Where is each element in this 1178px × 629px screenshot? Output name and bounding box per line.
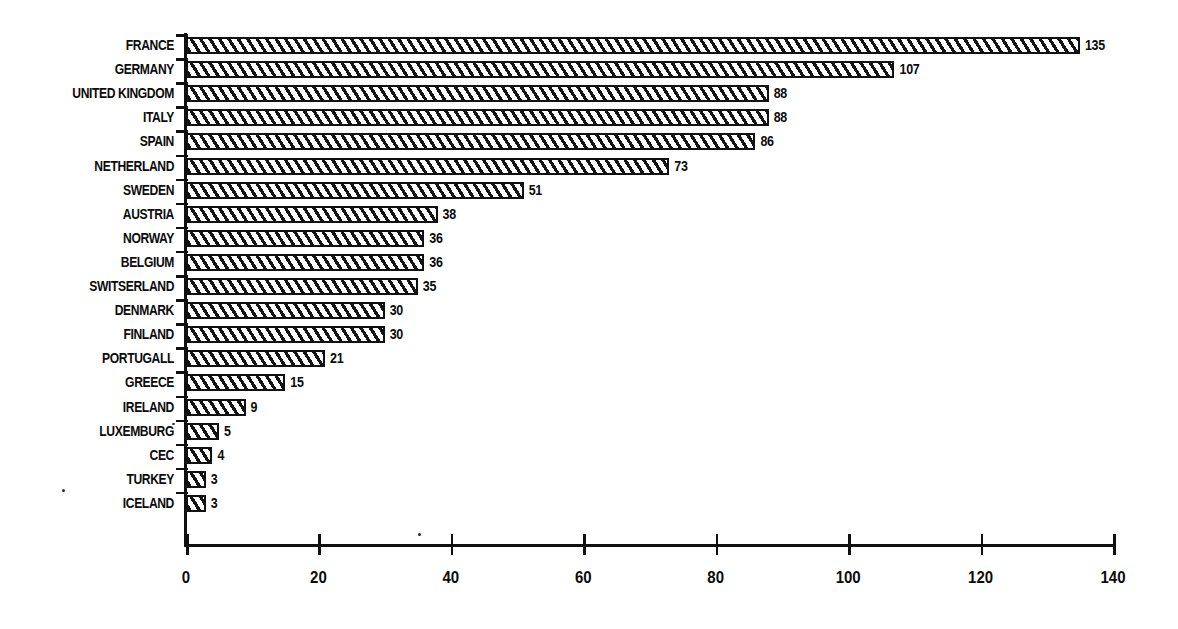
bar-row: FRANCE135 bbox=[0, 37, 1178, 55]
bar-row: DENMARK30 bbox=[0, 302, 1178, 320]
category-label-netherland: NETHERLAND bbox=[0, 155, 174, 176]
x-axis-tick bbox=[318, 534, 321, 555]
category-label-luxemburg: LUXEMBURG bbox=[0, 420, 174, 441]
bar-iceland bbox=[186, 495, 206, 512]
category-label-cec: CEC bbox=[0, 444, 174, 465]
bar-value-label: 9 bbox=[251, 396, 258, 417]
bar-value-label: 30 bbox=[390, 324, 403, 345]
bar-luxemburg bbox=[186, 423, 219, 440]
bar-denmark bbox=[186, 302, 385, 319]
bar-row: AUSTRIA38 bbox=[0, 206, 1178, 224]
bar-value-label: 36 bbox=[429, 251, 442, 272]
bar-row: UNITED KINGDOM88 bbox=[0, 85, 1178, 103]
bar-spain bbox=[186, 133, 755, 150]
bar-finland bbox=[186, 326, 385, 343]
bar-value-label: 38 bbox=[443, 203, 456, 224]
bar-row: SPAIN86 bbox=[0, 133, 1178, 151]
category-label-united-kingdom: UNITED KINGDOM bbox=[0, 83, 174, 104]
bar-austria bbox=[186, 206, 438, 223]
bar-row: LUXEMBURG5 bbox=[0, 423, 1178, 441]
bar-value-label: 30 bbox=[390, 299, 403, 320]
bar-netherland bbox=[186, 158, 669, 175]
category-label-france: FRANCE bbox=[0, 34, 174, 55]
category-label-norway: NORWAY bbox=[0, 227, 174, 248]
bar-value-label: 73 bbox=[674, 155, 687, 176]
category-label-italy: ITALY bbox=[0, 107, 174, 128]
bar-ireland bbox=[186, 399, 246, 416]
x-axis-tick bbox=[186, 534, 189, 555]
bar-rows: FRANCE135GERMANY107UNITED KINGDOM88ITALY… bbox=[0, 0, 1178, 629]
bar-row: ITALY88 bbox=[0, 109, 1178, 127]
bar-value-label: 86 bbox=[760, 131, 773, 152]
bar-row: SWEDEN51 bbox=[0, 182, 1178, 200]
bar-row: NETHERLAND73 bbox=[0, 158, 1178, 176]
bar-row: IRELAND9 bbox=[0, 399, 1178, 417]
bar-chart: FRANCE135GERMANY107UNITED KINGDOM88ITALY… bbox=[0, 0, 1178, 629]
bar-row: CEC4 bbox=[0, 447, 1178, 465]
bar-value-label: 51 bbox=[529, 179, 542, 200]
category-label-ireland: IRELAND bbox=[0, 396, 174, 417]
category-label-spain: SPAIN bbox=[0, 131, 174, 152]
category-label-portugall: PORTUGALL bbox=[0, 348, 174, 369]
bar-value-label: 36 bbox=[429, 227, 442, 248]
bar-row: TURKEY3 bbox=[0, 471, 1178, 489]
bar-row: SWITSERLAND35 bbox=[0, 278, 1178, 296]
x-axis-tick-label: 40 bbox=[411, 567, 491, 587]
bar-united-kingdom bbox=[186, 85, 769, 102]
bar-value-label: 4 bbox=[217, 444, 224, 465]
scan-artifact bbox=[418, 533, 421, 536]
x-axis-tick-label: 120 bbox=[941, 567, 1021, 587]
bar-row: GREECE15 bbox=[0, 374, 1178, 392]
x-axis-tick-label: 20 bbox=[278, 567, 358, 587]
category-label-iceland: ICELAND bbox=[0, 492, 174, 513]
bar-value-label: 107 bbox=[899, 58, 919, 79]
bar-value-label: 135 bbox=[1085, 34, 1105, 55]
bar-norway bbox=[186, 230, 424, 247]
x-axis-tick-label: 0 bbox=[146, 567, 226, 587]
category-label-germany: GERMANY bbox=[0, 58, 174, 79]
category-label-sweden: SWEDEN bbox=[0, 179, 174, 200]
scan-artifact bbox=[62, 489, 65, 492]
bar-row: FINLAND30 bbox=[0, 326, 1178, 344]
bar-france bbox=[186, 37, 1080, 54]
bar-value-label: 88 bbox=[774, 107, 787, 128]
bar-row: PORTUGALL21 bbox=[0, 350, 1178, 368]
x-axis-tick bbox=[981, 534, 984, 555]
bar-row: GERMANY107 bbox=[0, 61, 1178, 79]
bar-row: BELGIUM36 bbox=[0, 254, 1178, 272]
bar-value-label: 3 bbox=[211, 492, 218, 513]
x-axis-tick bbox=[583, 534, 586, 555]
bar-germany bbox=[186, 61, 894, 78]
category-label-austria: AUSTRIA bbox=[0, 203, 174, 224]
bar-sweden bbox=[186, 182, 524, 199]
scan-artifact bbox=[172, 423, 175, 425]
bar-italy bbox=[186, 109, 769, 126]
x-axis-tick-label: 80 bbox=[676, 567, 756, 587]
bar-value-label: 88 bbox=[774, 83, 787, 104]
category-label-turkey: TURKEY bbox=[0, 468, 174, 489]
bar-value-label: 3 bbox=[211, 468, 218, 489]
bar-row: ICELAND3 bbox=[0, 495, 1178, 513]
x-axis-tick-label: 140 bbox=[1073, 567, 1153, 587]
x-axis-tick bbox=[848, 534, 851, 555]
bar-switserland bbox=[186, 278, 418, 295]
x-axis-tick bbox=[716, 534, 719, 555]
category-label-switserland: SWITSERLAND bbox=[0, 275, 174, 296]
x-axis-tick bbox=[1113, 534, 1116, 555]
bar-portugall bbox=[186, 350, 325, 367]
x-axis-tick bbox=[451, 534, 454, 555]
category-label-denmark: DENMARK bbox=[0, 299, 174, 320]
category-label-finland: FINLAND bbox=[0, 324, 174, 345]
bar-value-label: 35 bbox=[423, 275, 436, 296]
bar-row: NORWAY36 bbox=[0, 230, 1178, 248]
bar-cec bbox=[186, 447, 212, 464]
bar-value-label: 5 bbox=[224, 420, 231, 441]
bar-turkey bbox=[186, 471, 206, 488]
x-axis-tick-label: 100 bbox=[808, 567, 888, 587]
category-label-belgium: BELGIUM bbox=[0, 251, 174, 272]
bar-value-label: 21 bbox=[330, 348, 343, 369]
bar-value-label: 15 bbox=[290, 372, 303, 393]
category-label-greece: GREECE bbox=[0, 372, 174, 393]
bar-greece bbox=[186, 374, 285, 391]
bar-belgium bbox=[186, 254, 424, 271]
